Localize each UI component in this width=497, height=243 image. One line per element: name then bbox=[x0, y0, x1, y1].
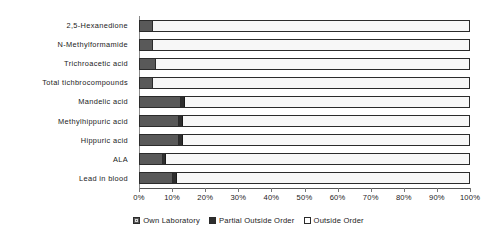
category-label: N-Methylformamide bbox=[0, 35, 133, 54]
category-label: Trichroacetic acid bbox=[0, 54, 133, 73]
stacked-bar[interactable] bbox=[139, 58, 470, 70]
bar-segment[interactable] bbox=[177, 173, 469, 183]
stacked-bar-chart: 2,5-HexanedioneN-MethylformamideTrichroa… bbox=[0, 0, 497, 243]
stacked-bar[interactable] bbox=[139, 153, 470, 165]
bar-segment[interactable] bbox=[153, 78, 469, 88]
axis-tick bbox=[470, 188, 471, 192]
bar-row bbox=[139, 112, 470, 131]
stacked-bar[interactable] bbox=[139, 77, 470, 89]
category-label: 2,5-Hexanedione bbox=[0, 16, 133, 35]
plot-area bbox=[139, 16, 470, 188]
axis-tick-label: 80% bbox=[396, 193, 412, 202]
axis-tick bbox=[271, 188, 272, 192]
outside-order-swatch-icon bbox=[304, 217, 311, 224]
category-label: Methylhippuric acid bbox=[0, 112, 133, 131]
bar-segment[interactable] bbox=[140, 135, 179, 145]
category-label: Hippuric acid bbox=[0, 131, 133, 150]
legend-item[interactable]: Partial Outside Order bbox=[209, 216, 295, 225]
axis-tick bbox=[305, 188, 306, 192]
bar-row bbox=[139, 16, 470, 35]
bar-segment[interactable] bbox=[140, 59, 156, 69]
axis-tick-label: 10% bbox=[164, 193, 180, 202]
bar-segment[interactable] bbox=[185, 97, 469, 107]
category-axis-labels: 2,5-HexanedioneN-MethylformamideTrichroa… bbox=[0, 16, 133, 188]
value-axis-tick-labels: 0%10%20%30%40%50%60%70%80%90%100% bbox=[0, 193, 497, 205]
category-label: Lead in blood bbox=[0, 169, 133, 188]
bar-segment[interactable] bbox=[140, 173, 173, 183]
bar-segment[interactable] bbox=[153, 40, 469, 50]
bar-segment[interactable] bbox=[153, 21, 469, 31]
legend-item[interactable]: Outside Order bbox=[304, 216, 364, 225]
legend-item-label: Outside Order bbox=[314, 216, 364, 225]
axis-tick bbox=[338, 188, 339, 192]
stacked-bar[interactable] bbox=[139, 39, 470, 51]
stacked-bar[interactable] bbox=[139, 172, 470, 184]
axis-tick-label: 60% bbox=[330, 193, 346, 202]
bar-segment[interactable] bbox=[140, 154, 163, 164]
axis-tick-label: 50% bbox=[297, 193, 313, 202]
bar-rows bbox=[139, 16, 470, 188]
bar-row bbox=[139, 35, 470, 54]
bar-segment[interactable] bbox=[140, 21, 153, 31]
axis-tick-label: 30% bbox=[230, 193, 246, 202]
axis-tick bbox=[371, 188, 372, 192]
axis-tick bbox=[172, 188, 173, 192]
category-label: ALA bbox=[0, 150, 133, 169]
bar-segment[interactable] bbox=[166, 154, 469, 164]
axis-tick bbox=[404, 188, 405, 192]
axis-tick bbox=[437, 188, 438, 192]
bar-row bbox=[139, 92, 470, 111]
legend-item-label: Own Laboratory bbox=[143, 216, 200, 225]
bar-segment[interactable] bbox=[140, 97, 181, 107]
axis-tick-label: 20% bbox=[197, 193, 213, 202]
bar-segment[interactable] bbox=[140, 40, 153, 50]
bar-segment[interactable] bbox=[183, 116, 469, 126]
bar-row bbox=[139, 73, 470, 92]
stacked-bar[interactable] bbox=[139, 20, 470, 32]
axis-tick-label: 40% bbox=[263, 193, 279, 202]
axis-tick-label: 0% bbox=[133, 193, 144, 202]
bar-segment[interactable] bbox=[156, 59, 469, 69]
legend-item[interactable]: Own Laboratory bbox=[133, 216, 200, 225]
stacked-bar[interactable] bbox=[139, 134, 470, 146]
bar-segment[interactable] bbox=[183, 135, 469, 145]
bar-segment[interactable] bbox=[140, 78, 153, 88]
axis-tick bbox=[139, 188, 140, 192]
category-label: Mandelic acid bbox=[0, 92, 133, 111]
category-label: Total tichbrocompounds bbox=[0, 73, 133, 92]
axis-tick-label: 100% bbox=[460, 193, 480, 202]
stacked-bar[interactable] bbox=[139, 115, 470, 127]
legend-item-label: Partial Outside Order bbox=[219, 216, 295, 225]
bar-row bbox=[139, 54, 470, 73]
bar-row bbox=[139, 150, 470, 169]
axis-tick bbox=[238, 188, 239, 192]
bar-row bbox=[139, 169, 470, 188]
axis-tick-label: 90% bbox=[429, 193, 445, 202]
bar-row bbox=[139, 131, 470, 150]
chart-legend: Own LaboratoryPartial Outside OrderOutsi… bbox=[0, 216, 497, 225]
partial-outside-order-swatch-icon bbox=[209, 217, 216, 224]
axis-tick bbox=[205, 188, 206, 192]
axis-tick-label: 70% bbox=[363, 193, 379, 202]
bar-segment[interactable] bbox=[140, 116, 179, 126]
own-laboratory-swatch-icon bbox=[133, 217, 140, 224]
stacked-bar[interactable] bbox=[139, 96, 470, 108]
